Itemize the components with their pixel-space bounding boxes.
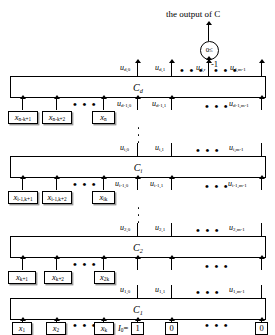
input-arrow-cd-xn bbox=[103, 99, 104, 110]
output-line-c1-1 bbox=[171, 285, 172, 298]
input-ellipsis-cd-u: • • • bbox=[205, 101, 229, 112]
output-line-ci-m1 bbox=[261, 143, 262, 156]
input-label-ci-um1: ui-1,m-1 bbox=[228, 180, 247, 188]
input-arrow-ci-x1 bbox=[22, 179, 23, 190]
input-token-ci-x2: xi-1,k+2 bbox=[42, 191, 72, 204]
input-token-c1-x1: x1 bbox=[12, 322, 32, 335]
input-ellipsis-c2-x: • • • bbox=[73, 259, 97, 270]
output-label-cd-0: ud,0 bbox=[120, 64, 130, 72]
output-arrow-cd-0 bbox=[137, 63, 138, 76]
output-ellipsis-c1: • • • bbox=[196, 287, 220, 298]
layer-label-ci: Ci bbox=[11, 162, 265, 173]
init-bit-0: 1 bbox=[131, 322, 144, 335]
input-token-c2-x1: xk+1 bbox=[8, 271, 36, 284]
output-label-cd-1: ud,1 bbox=[155, 64, 165, 72]
vertical-ellipsis-ci-c2 bbox=[137, 207, 140, 223]
output-label-c2-1: u2,1 bbox=[155, 224, 165, 232]
input-arrow-ci-u1 bbox=[171, 179, 172, 190]
input-arrow-cd-u1 bbox=[171, 99, 172, 110]
input-arrow-c2-x2k bbox=[103, 259, 104, 270]
input-arrow-c2-u1 bbox=[171, 259, 172, 270]
input-ellipsis-c2-u: • • • bbox=[205, 261, 229, 272]
input-arrow-c2-x2 bbox=[56, 259, 57, 270]
input-arrow-cd-x1 bbox=[22, 99, 23, 110]
input-arrow-c2-u0 bbox=[137, 259, 138, 270]
input-token-c2-x2: xk+2 bbox=[44, 271, 72, 284]
output-label-ci-m1: ui,m-1 bbox=[229, 144, 244, 152]
input-label-cd-u0: ud-1,0 bbox=[117, 100, 131, 108]
output-line-ci-1 bbox=[171, 143, 172, 156]
input-arrow-cd-u0 bbox=[137, 99, 138, 110]
output-ellipsis-c2: • • • bbox=[196, 225, 220, 236]
output-line-c2-1 bbox=[171, 223, 172, 236]
input-token-c1-xk: xk bbox=[94, 322, 114, 335]
input-label-ci-u0: ui-1,0 bbox=[115, 180, 128, 188]
output-line-c1-m1 bbox=[261, 285, 262, 298]
init-vector-label: I0= bbox=[118, 324, 128, 333]
output-line-c2-0 bbox=[137, 223, 138, 236]
input-arrow-ci-x2 bbox=[56, 179, 57, 190]
output-label-c1-m1: u1,m-1 bbox=[229, 286, 245, 294]
input-label-cd-u1: ud-1,1 bbox=[152, 100, 166, 108]
input-token-cd-x1: xn-k+1 bbox=[8, 111, 38, 124]
input-token-c1-x2: x2 bbox=[46, 322, 66, 335]
input-ellipsis-c1-bits: • • • bbox=[205, 320, 229, 331]
input-token-cd-x2: xn-k+2 bbox=[42, 111, 72, 124]
output-label-c2-m1: u2,m-1 bbox=[229, 224, 245, 232]
layer-label-cd: Cd bbox=[11, 82, 265, 93]
input-label-cd-um1: ud-1,m-1 bbox=[229, 100, 249, 108]
vertical-ellipsis-cd-ci bbox=[137, 127, 140, 143]
output-arrow-cd-r bbox=[208, 63, 209, 76]
output-label-cd-m1: ud,m-1 bbox=[230, 64, 246, 72]
init-bit-m1: 0 bbox=[255, 322, 268, 335]
output-line-c2-m1 bbox=[261, 223, 262, 236]
output-label-ci-0: ui,0 bbox=[120, 144, 129, 152]
input-arrow-cd-um1 bbox=[261, 99, 262, 110]
output-label-cd-r: ud,r bbox=[196, 64, 205, 72]
input-arrow-ci-um1 bbox=[261, 179, 262, 190]
output-line-ci-0 bbox=[137, 143, 138, 156]
output-line-c1-0 bbox=[137, 285, 138, 298]
input-arrow-cd-x2 bbox=[56, 99, 57, 110]
input-ellipsis-cd-x: • • • bbox=[73, 99, 97, 110]
input-token-c2-x2k: x2k bbox=[94, 271, 115, 284]
input-ellipsis-ci-u: • • • bbox=[205, 181, 229, 192]
output-label-c1-1: u1,1 bbox=[155, 286, 165, 294]
output-arrow bbox=[208, 25, 209, 41]
layer-label-c2: C2 bbox=[11, 242, 265, 253]
output-label-c1-0: u1,0 bbox=[120, 286, 130, 294]
input-token-ci-xik: xik bbox=[92, 191, 115, 204]
output-ellipsis-ci: • • • bbox=[196, 145, 220, 156]
input-arrow-c2-x1 bbox=[22, 259, 23, 270]
input-arrow-ci-xik bbox=[103, 179, 104, 190]
input-label-ci-u1: ui-1,1 bbox=[150, 180, 163, 188]
output-caption: the output of C bbox=[166, 10, 220, 19]
input-arrow-ci-u0 bbox=[137, 179, 138, 190]
output-arrow-cd-m1 bbox=[261, 63, 262, 76]
init-bit-1: 0 bbox=[165, 322, 178, 335]
layer-label-c1: C1 bbox=[11, 304, 265, 315]
input-token-cd-xn: xn bbox=[92, 111, 115, 124]
output-label-c2-0: u2,0 bbox=[120, 224, 130, 232]
input-arrow-c2-um1 bbox=[261, 259, 262, 270]
output-label-ci-1: ui,1 bbox=[155, 144, 164, 152]
output-arrow-cd-1 bbox=[171, 63, 172, 76]
network-diagram: the output of C 0≤ -1 ud,0 ud,1 • • • ud… bbox=[0, 0, 275, 335]
input-ellipsis-ci-x: • • • bbox=[73, 179, 97, 190]
input-token-ci-x1: xi-1,k+1 bbox=[8, 191, 38, 204]
